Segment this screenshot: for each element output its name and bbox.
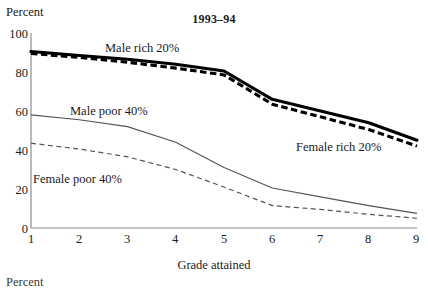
series-label-male-rich: Male rich 20% bbox=[105, 41, 179, 56]
y-tick-40: 40 bbox=[2, 144, 28, 159]
x-tick-1: 1 bbox=[21, 232, 41, 247]
series-line-female-rich bbox=[31, 53, 417, 146]
y-tick-20: 20 bbox=[2, 183, 28, 198]
x-tick-9: 9 bbox=[406, 232, 426, 247]
x-tick-8: 8 bbox=[358, 232, 378, 247]
x-axis-label: Grade attained bbox=[0, 259, 428, 272]
x-tick-3: 3 bbox=[117, 232, 137, 247]
x-tick-5: 5 bbox=[214, 232, 234, 247]
x-tick-7: 7 bbox=[310, 232, 330, 247]
y-tick-60: 60 bbox=[2, 105, 28, 120]
y-tick-80: 80 bbox=[2, 66, 28, 81]
series-label-male-poor: Male poor 40% bbox=[70, 104, 148, 119]
series-label-female-rich: Female rich 20% bbox=[296, 140, 381, 155]
x-tick-6: 6 bbox=[262, 232, 282, 247]
x-tick-2: 2 bbox=[69, 232, 89, 247]
chart-title: 1993–94 bbox=[0, 13, 428, 25]
series-line-male-poor bbox=[31, 115, 417, 213]
y-tick-100: 100 bbox=[2, 27, 28, 42]
x-tick-4: 4 bbox=[165, 232, 185, 247]
series-label-female-poor: Female poor 40% bbox=[33, 172, 122, 187]
next-chart-partial-label: Percent bbox=[6, 276, 43, 289]
